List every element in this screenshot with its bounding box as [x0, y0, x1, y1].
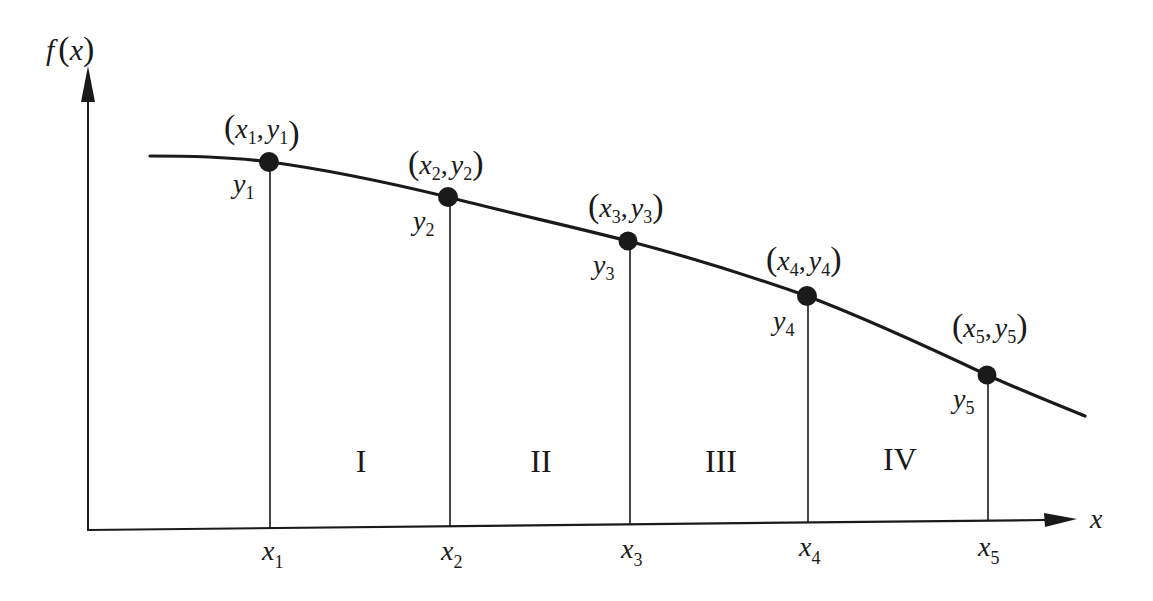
- data-points: [259, 152, 997, 385]
- interval-label-4: IV: [883, 441, 917, 477]
- x-tick-labels: x1 x2 x3 x4 x5: [261, 531, 999, 572]
- y-label-2: y2: [410, 205, 434, 240]
- interval-labels: I II III IV: [356, 441, 917, 479]
- x-axis: [88, 513, 1077, 530]
- x-tick-2: x2: [440, 535, 462, 572]
- coord-label-2: (x2,y2): [408, 144, 484, 184]
- y-axis-label: f(x): [46, 30, 94, 68]
- x-tick-3: x3: [620, 533, 642, 570]
- coordinate-labels: (x1,y1() (x2,y2) (x3,y3) (x4,y4) (x5,y5): [224, 108, 1028, 347]
- point-3: [619, 232, 638, 251]
- x-axis-label: x: [1089, 503, 1103, 534]
- x-tick-5: x5: [977, 531, 999, 568]
- coord-label-3: (x3,y3): [588, 187, 664, 227]
- x-tick-4: x4: [798, 531, 820, 568]
- y-label-3: y3: [590, 249, 614, 284]
- y-axis-arrow-icon: [81, 66, 95, 102]
- x-tick-1: x1: [261, 535, 283, 572]
- y-axis: [81, 66, 95, 531]
- x-axis-arrow-icon: [1044, 513, 1077, 527]
- coord-label-5: (x5,y5): [952, 307, 1028, 347]
- function-curve: [150, 156, 1085, 416]
- interval-label-1: I: [356, 443, 367, 479]
- drop-lines: [270, 162, 988, 529]
- point-5: [978, 366, 997, 385]
- interval-label-3: III: [705, 443, 737, 479]
- coord-label-1: (x1,y1(): [224, 108, 300, 152]
- y-label-1: y1: [230, 168, 254, 203]
- point-4: [797, 286, 817, 306]
- point-1: [259, 152, 279, 172]
- interval-label-2: II: [530, 443, 551, 479]
- coord-label-4: (x4,y4): [766, 240, 842, 280]
- y-label-4: y4: [770, 305, 794, 340]
- interpolation-diagram: f(x) x (x1,y1() (x2,y2) (x3,y3) (x4,y4) …: [0, 0, 1153, 601]
- point-2: [438, 187, 458, 207]
- y-label-5: y5: [950, 383, 974, 418]
